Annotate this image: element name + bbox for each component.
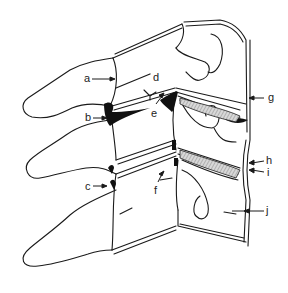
label-h: h (266, 155, 272, 166)
label-e: e (151, 108, 157, 119)
label-c: c (85, 181, 91, 192)
vertebrae-diagram: a b c d e f g h i j (0, 0, 288, 293)
label-i: i (267, 167, 269, 178)
label-a: a (84, 73, 90, 84)
label-g: g (268, 92, 274, 103)
label-j: j (266, 205, 268, 216)
label-b: b (85, 112, 91, 123)
vertebrae-drawing (0, 0, 288, 293)
label-f: f (154, 185, 157, 196)
label-d: d (153, 72, 159, 83)
